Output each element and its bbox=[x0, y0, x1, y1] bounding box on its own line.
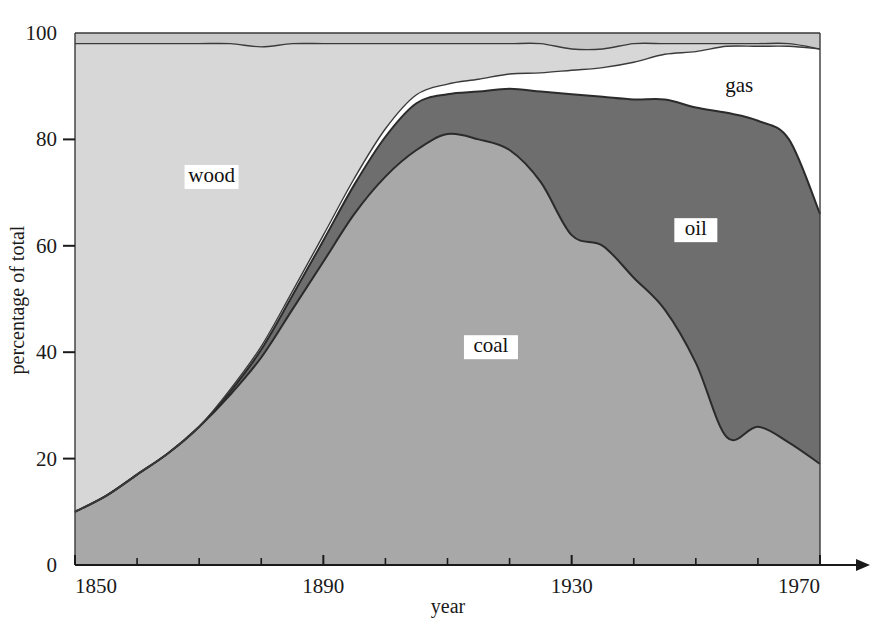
y-tick-label: 40 bbox=[36, 340, 57, 364]
plot-areas bbox=[75, 33, 820, 565]
x-axis-arrowhead bbox=[856, 559, 870, 571]
stacked-area-chart: 1850189019301970 020406080100 year perce… bbox=[0, 0, 884, 626]
series-label-gas: gas bbox=[725, 73, 753, 97]
series-label-wood: wood bbox=[188, 163, 235, 187]
x-tick-label: 1930 bbox=[551, 574, 593, 598]
y-axis-title: percentage of total bbox=[6, 225, 29, 374]
y-tick-label: 100 bbox=[26, 21, 58, 45]
y-axis-ticks bbox=[63, 139, 75, 458]
x-tick-label: 1890 bbox=[302, 574, 344, 598]
y-tick-label: 60 bbox=[36, 234, 57, 258]
series-label-coal: coal bbox=[473, 333, 508, 357]
series-label-oil: oil bbox=[685, 216, 707, 240]
y-tick-label: 20 bbox=[36, 447, 57, 471]
chart-figure: 1850189019301970 020406080100 year perce… bbox=[0, 0, 884, 626]
y-axis-tick-labels: 020406080100 bbox=[26, 21, 58, 577]
x-tick-label: 1970 bbox=[778, 574, 820, 598]
x-axis-title: year bbox=[431, 595, 466, 618]
y-tick-label: 0 bbox=[47, 553, 58, 577]
y-tick-label: 80 bbox=[36, 127, 57, 151]
x-tick-label: 1850 bbox=[75, 574, 117, 598]
